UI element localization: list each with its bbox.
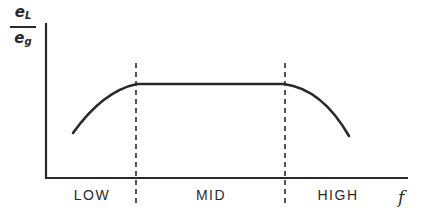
y-label-numerator: eL <box>8 4 38 24</box>
frequency-response-diagram: eL eg LOW MID HIGH f <box>0 0 429 213</box>
y-label-denominator: eg <box>8 30 38 50</box>
fraction-bar <box>10 26 36 28</box>
y-axis-label: eL eg <box>8 4 38 50</box>
x-axis-label: f <box>398 187 404 207</box>
response-curve <box>73 84 349 136</box>
diagram-canvas <box>0 0 429 213</box>
region-label-high: HIGH <box>306 187 370 203</box>
region-label-low: LOW <box>66 187 118 203</box>
region-label-mid: MID <box>185 187 237 203</box>
